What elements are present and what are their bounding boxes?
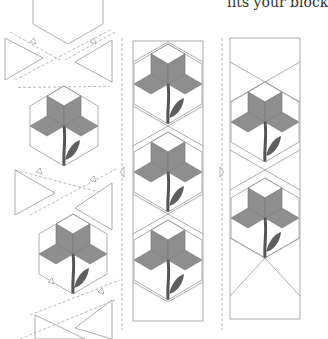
finished-strip-panel — [230, 38, 300, 319]
exploded-assembly-panel — [5, 0, 120, 339]
sewn-strip-panel — [133, 41, 203, 321]
